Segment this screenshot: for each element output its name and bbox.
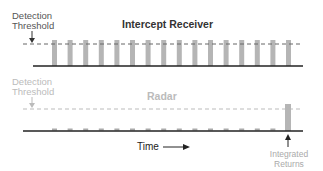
radar-pulse	[99, 129, 104, 131]
radar-pulse	[177, 129, 182, 131]
integrated-returns-arrow-icon	[285, 134, 291, 147]
diagram-graphics	[0, 0, 323, 171]
radar-pulse	[83, 129, 88, 131]
integrated-return-bar	[285, 104, 291, 131]
radar-pulse	[161, 129, 166, 131]
radar-pulse	[224, 129, 229, 131]
radar-pulse	[146, 129, 151, 131]
radar-pulse	[255, 129, 260, 131]
radar-pulse	[208, 129, 213, 131]
radar-pulse	[68, 129, 73, 131]
time-arrow-icon	[163, 144, 190, 150]
bottom-threshold-arrow-icon	[29, 97, 35, 108]
radar-pulse	[192, 129, 197, 131]
radar-pulse	[52, 129, 57, 131]
radar-pulse	[114, 129, 119, 131]
radar-pulse	[270, 129, 275, 131]
top-threshold-arrow-icon	[29, 31, 35, 43]
radar-pulses	[52, 129, 275, 131]
radar-pulse	[130, 129, 135, 131]
radar-pulse	[239, 129, 244, 131]
